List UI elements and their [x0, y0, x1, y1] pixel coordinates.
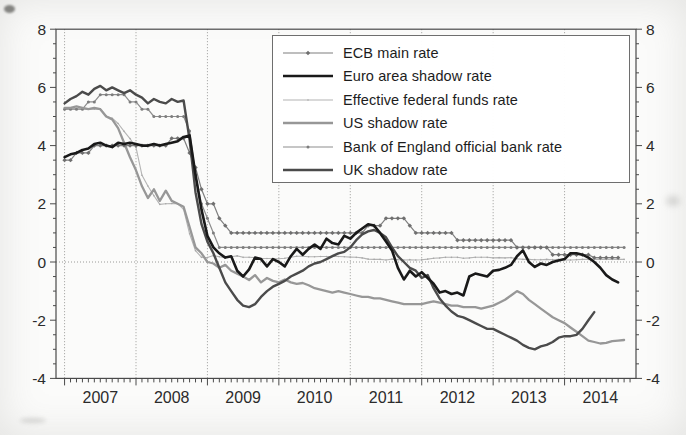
- y-tick-label: 8: [646, 21, 655, 38]
- legend-item-label: Effective federal funds rate: [343, 93, 518, 108]
- legend-line-sample-fed_funds: [282, 95, 334, 105]
- x-tick-label: 2012: [440, 389, 476, 406]
- x-tick-label: 2014: [582, 389, 618, 406]
- legend-line-sample-ecb_main: [282, 48, 334, 58]
- legend-item-fed_funds: Effective federal funds rate: [282, 89, 629, 111]
- legend-line-sample-uk_shadow: [282, 165, 334, 175]
- x-tick-label: 2011: [369, 389, 404, 406]
- y-tick-label: 2: [646, 195, 655, 212]
- scanned-rates-chart-figure: 8866442200-2-2-4-42007200820092010201120…: [0, 0, 686, 435]
- legend-item-euro_shadow: Euro area shadow rate: [282, 65, 629, 87]
- y-tick-label: 6: [37, 79, 46, 96]
- x-tick-label: 2010: [297, 389, 333, 406]
- x-tick-label: 2008: [154, 389, 190, 406]
- x-tick-label: 2007: [82, 389, 118, 406]
- y-tick-label: 0: [37, 254, 46, 271]
- legend-item-label: US shadow rate: [343, 116, 448, 131]
- x-tick-label: 2013: [511, 389, 547, 406]
- chart-legend: ECB main rateEuro area shadow rateEffect…: [272, 35, 630, 183]
- legend-item-us_shadow: US shadow rate: [282, 112, 629, 134]
- y-tick-label: -4: [32, 370, 46, 387]
- y-tick-label: 2: [37, 195, 46, 212]
- y-tick-label: 4: [37, 137, 46, 154]
- y-tick-label: 8: [37, 21, 46, 38]
- y-tick-label: -4: [646, 370, 660, 387]
- legend-item-boe_rate: Bank of England official bank rate: [282, 136, 629, 158]
- y-tick-label: 4: [646, 137, 655, 154]
- x-tick-label: 2009: [225, 389, 261, 406]
- legend-item-label: UK shadow rate: [343, 163, 448, 178]
- legend-item-label: Euro area shadow rate: [343, 69, 492, 84]
- x-axis-labels: 20072008200920102011201220132014: [82, 389, 618, 406]
- legend-item-uk_shadow: UK shadow rate: [282, 159, 629, 181]
- y-tick-label: -2: [32, 312, 46, 329]
- y-tick-label: 6: [646, 79, 655, 96]
- y-tick-label: 0: [646, 254, 655, 271]
- legend-line-sample-boe_rate: [282, 142, 334, 152]
- legend-line-sample-us_shadow: [282, 118, 334, 128]
- legend-item-label: ECB main rate: [343, 46, 439, 61]
- legend-line-sample-euro_shadow: [282, 71, 334, 81]
- y-tick-label: -2: [646, 312, 660, 329]
- legend-item-label: Bank of England official bank rate: [343, 140, 562, 155]
- legend-item-ecb_main: ECB main rate: [282, 42, 629, 64]
